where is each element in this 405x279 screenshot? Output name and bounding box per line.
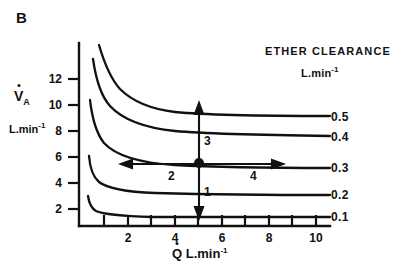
- y-axis-units-exponent: -1: [38, 121, 45, 130]
- y-axis-symbol-subscript: A: [23, 97, 30, 107]
- operating-point-marker: [194, 158, 204, 168]
- legend-title: ETHER CLEARANCE: [265, 46, 391, 57]
- figure-panel-b: B ETHER CLEARANCE L.min-1 0.5 0.4 0.3 0.…: [0, 0, 405, 279]
- panel-label: B: [16, 10, 27, 25]
- x-axis-symbol-q: Q: [172, 247, 182, 260]
- curve-label-0-5: 0.5: [331, 111, 349, 123]
- x-axis-units-base: L.min: [186, 246, 221, 261]
- curve-label-0-1: 0.1: [331, 211, 349, 223]
- y-tick-label-12: 12: [40, 73, 62, 85]
- y-axis-symbol-v: V: [14, 89, 23, 103]
- y-tick-label-2: 2: [40, 203, 62, 215]
- annotation-label-1: 1: [204, 186, 211, 198]
- y-axis-label-symbol: VA: [14, 89, 30, 107]
- curve-label-0-2: 0.2: [331, 189, 349, 201]
- x-tick-label-2: 2: [118, 232, 138, 244]
- legend-units-base: L.min: [301, 67, 331, 79]
- x-tick-label-6: 6: [212, 232, 232, 244]
- x-tick-label-10: 10: [306, 232, 326, 244]
- y-axis-label-units: L.min-1: [9, 122, 45, 135]
- legend-units: L.min-1: [301, 66, 338, 79]
- legend-units-exponent: -1: [331, 65, 338, 74]
- curve-0.1: [88, 196, 330, 217]
- curve-label-0-4: 0.4: [331, 131, 349, 143]
- y-axis-units-base: L.min: [9, 123, 38, 135]
- x-tick-label-8: 8: [259, 232, 279, 244]
- annotation-label-4: 4: [250, 170, 257, 182]
- arrow-2-head: [121, 160, 132, 168]
- y-axis-ticks: [68, 79, 79, 209]
- arrow-3-head: [195, 103, 203, 114]
- curve-label-0-3: 0.3: [331, 162, 349, 174]
- y-tick-label-10: 10: [40, 99, 62, 111]
- y-tick-label-4: 4: [40, 177, 62, 189]
- annotation-label-3: 3: [204, 135, 211, 147]
- annotation-label-2: 2: [168, 170, 175, 182]
- x-axis-label: Q L.min-1: [172, 247, 228, 260]
- x-axis-units-exponent: -1: [220, 246, 227, 255]
- y-tick-label-6: 6: [40, 151, 62, 163]
